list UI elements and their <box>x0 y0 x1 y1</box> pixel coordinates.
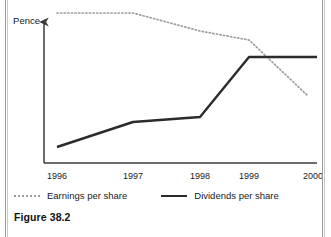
series-line-dividends-per-share <box>57 57 317 147</box>
page-rule-right-inner <box>324 0 325 237</box>
page-rule-left-inner <box>7 0 8 237</box>
dotted-line-icon <box>14 191 40 201</box>
x-tick-label-1996: 1996 <box>47 171 67 181</box>
x-tick-label-1998: 1998 <box>190 171 210 181</box>
legend-label-earnings-per-share: Earnings per share <box>47 191 127 201</box>
series-line-earnings-per-share <box>57 13 307 95</box>
page-rule-right <box>322 0 323 237</box>
figure-caption: Figure 38.2 <box>14 211 71 223</box>
solid-line-icon <box>161 191 187 201</box>
figure-container: Pence 1996 1997 1998 1999 2000 Earnings … <box>0 0 331 237</box>
legend-item-dividends-per-share: Dividends per share <box>161 191 279 201</box>
legend-label-dividends-per-share: Dividends per share <box>194 191 279 201</box>
legend-item-earnings-per-share: Earnings per share <box>14 191 127 201</box>
x-tick-label-2000: 2000 <box>303 171 322 181</box>
chart-svg: Pence 1996 1997 1998 1999 2000 <box>10 2 322 184</box>
line-chart: Pence 1996 1997 1998 1999 2000 <box>10 2 322 184</box>
page-rule-left <box>5 0 6 237</box>
x-tick-label-1997: 1997 <box>123 171 143 181</box>
chart-legend: Earnings per share Dividends per share <box>14 188 314 204</box>
y-axis-label: Pence <box>13 15 40 26</box>
x-tick-label-1999: 1999 <box>239 171 259 181</box>
